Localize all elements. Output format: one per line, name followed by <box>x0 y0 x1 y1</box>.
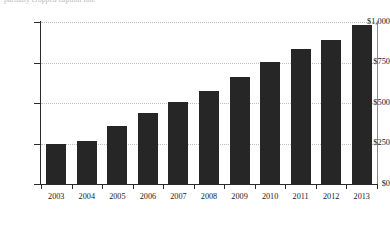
x-axis-label-2012: 2012 <box>316 192 347 201</box>
y-axis-label-750: $750 <box>356 58 390 66</box>
x-axis-tick-3 <box>133 184 134 189</box>
plot-area <box>41 22 377 184</box>
bar-chart: $0$250$500$750$1,000 2003200420052006200… <box>0 0 390 230</box>
y-axis-label-250: $250 <box>356 139 390 147</box>
y-axis-tick-500 <box>34 103 41 104</box>
x-axis-tick-5 <box>194 184 195 189</box>
y-axis-label-500: $500 <box>356 99 390 107</box>
x-axis-tick-9 <box>316 184 317 189</box>
x-axis-tick-0 <box>41 184 42 189</box>
x-axis-label-2006: 2006 <box>133 192 164 201</box>
x-axis-label-2003: 2003 <box>41 192 72 201</box>
bar-2003 <box>46 144 66 184</box>
y-axis-tick-750 <box>34 63 41 64</box>
x-axis-label-2011: 2011 <box>285 192 316 201</box>
x-axis-tick-1 <box>72 184 73 189</box>
x-axis-tick-8 <box>285 184 286 189</box>
x-axis-label-2004: 2004 <box>72 192 103 201</box>
bar-2010 <box>260 62 280 184</box>
gridline-0 <box>41 184 377 185</box>
x-axis-label-2007: 2007 <box>163 192 194 201</box>
y-axis-tick-250 <box>34 144 41 145</box>
x-axis-label-2005: 2005 <box>102 192 133 201</box>
bar-2007 <box>168 102 188 184</box>
y-axis-label-1000: $1,000 <box>356 18 390 26</box>
x-axis-tick-7 <box>255 184 256 189</box>
bar-2011 <box>291 49 311 184</box>
x-axis-label-2009: 2009 <box>224 192 255 201</box>
x-axis-tick-end <box>377 184 378 189</box>
x-axis-tick-6 <box>224 184 225 189</box>
x-axis-tick-10 <box>346 184 347 189</box>
y-axis-tick-1000 <box>34 22 41 23</box>
bar-2006 <box>138 113 158 184</box>
x-axis-tick-2 <box>102 184 103 189</box>
y-axis-tick-0 <box>34 184 41 185</box>
bar-2009 <box>230 77 250 184</box>
x-axis-label-2008: 2008 <box>194 192 225 201</box>
x-axis-tick-4 <box>163 184 164 189</box>
bar-2008 <box>199 91 219 184</box>
x-axis-label-2010: 2010 <box>255 192 286 201</box>
bar-2005 <box>107 126 127 184</box>
bar-2012 <box>321 40 341 184</box>
bar-2004 <box>77 141 97 184</box>
gridline-1000 <box>41 22 377 23</box>
x-axis-label-2013: 2013 <box>346 192 377 201</box>
y-axis-label-0: $0 <box>356 180 390 188</box>
